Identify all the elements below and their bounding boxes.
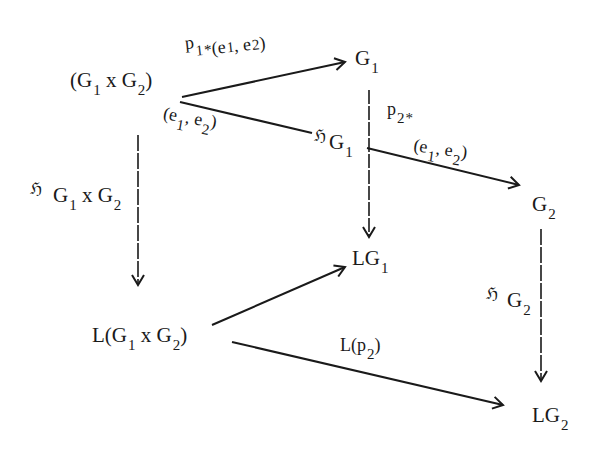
fraktur-h-symbol: ℌ [314, 127, 326, 144]
star-symbol: * [406, 110, 414, 126]
node-h-g1: ℌG1 [314, 132, 353, 153]
node-text: G [355, 46, 370, 70]
node-g2: G2 [532, 194, 556, 215]
edge-label-h-product: ℌG1 x G2 [30, 185, 121, 206]
node-text: x G [101, 68, 137, 92]
node-g1: G1 [355, 48, 379, 69]
node-text: G [329, 130, 344, 154]
subscript: 2 [114, 197, 122, 213]
edge-text: (e [211, 37, 227, 58]
subscript: 1 [371, 60, 379, 76]
edge-text: L(p [340, 335, 366, 355]
subscript: 2 [173, 337, 181, 353]
node-text: LG [352, 246, 380, 270]
node-text: x G [136, 323, 172, 347]
edge-text: , e [233, 34, 252, 56]
arrow-l-p1 [212, 267, 345, 325]
node-lg2: LG2 [532, 405, 569, 426]
subscript: 2 [397, 110, 405, 126]
subscript: 1 [128, 337, 136, 353]
edge-text: p [184, 32, 195, 53]
fraktur-h-symbol: ℌ [486, 285, 498, 302]
subscript: 2 [367, 346, 375, 362]
node-text: G [532, 192, 547, 216]
node-text: L(G [92, 323, 127, 347]
subscript: 2 [548, 206, 556, 222]
commutative-diagram: (G1 x G2) (e1, e2) p1*(e1, e2) G1 ℌG1 p2… [0, 0, 607, 453]
subscript: 1 [381, 260, 389, 276]
node-text: (G [70, 68, 92, 92]
subscript: 2 [523, 302, 531, 318]
edge-label-h-g2: ℌG2 [486, 290, 531, 311]
subscript: 1 [345, 144, 353, 160]
subscript: 1 [195, 42, 204, 59]
node-text: ) [145, 68, 152, 92]
edge-text: G [507, 288, 522, 312]
subscript: 1 [93, 82, 101, 98]
arrow-p1-star [182, 62, 345, 97]
node-text: LG [532, 403, 560, 427]
subscript: 2 [561, 417, 569, 433]
subscript: 1 [69, 197, 77, 213]
edge-text: ) [375, 335, 381, 355]
edge-label-l-p2: L(p2) [340, 336, 381, 354]
node-l-product: L(G1 x G2) [92, 325, 187, 346]
node-lg1: LG1 [352, 248, 389, 269]
fraktur-h-symbol: ℌ [30, 180, 42, 197]
edge-text: , e [435, 138, 455, 160]
edge-text: G [53, 183, 68, 207]
node-product-pointed: (G1 x G2) [70, 70, 152, 91]
edge-text: x G [77, 183, 113, 207]
node-text: ) [180, 323, 187, 347]
edge-label-p2-star: p2* [387, 100, 413, 118]
edge-text: (e [412, 135, 429, 157]
edge-text: p [387, 99, 396, 119]
subscript: 2 [138, 82, 146, 98]
